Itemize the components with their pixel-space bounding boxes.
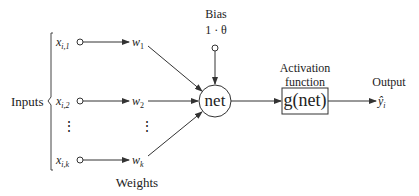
input-node-k [77, 157, 83, 163]
input-node-2 [77, 98, 83, 104]
input-label-1: xi,1 [56, 36, 70, 51]
weights-ellipsis: ⋮ [140, 120, 154, 134]
weight-label-1: w1 [132, 36, 144, 51]
activation-expression: g(net) [284, 91, 327, 109]
activation-label-line2: function [285, 76, 325, 88]
weight-label-2: w2 [132, 95, 144, 110]
weight-label-k: wk [132, 154, 144, 169]
input-label-k: xi,k [56, 154, 69, 169]
bias-value: 1 · θ [205, 24, 227, 36]
output-symbol: ŷi [378, 95, 386, 110]
input-node-1 [77, 39, 83, 45]
inputs-bracket [48, 33, 53, 170]
weights-label: Weights [116, 176, 158, 189]
bias-node [212, 45, 218, 51]
output-label: Output [372, 76, 405, 88]
bias-label: Bias [205, 8, 226, 20]
net-label: net [205, 92, 226, 109]
inputs-ellipsis: ⋮ [62, 120, 76, 134]
input-label-2: xi,2 [56, 95, 70, 110]
inputs-label: Inputs [11, 95, 44, 108]
activation-label-line1: Activation [280, 62, 331, 74]
